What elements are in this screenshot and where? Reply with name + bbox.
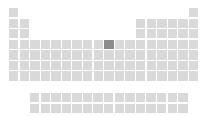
element-cell-sm[interactable] [83,93,92,102]
element-cell-er[interactable] [146,93,155,102]
element-cell-lr[interactable] [178,104,187,113]
element-cell-eu[interactable] [93,93,102,102]
element-cell-ac[interactable] [30,104,39,113]
element-cell-la[interactable] [30,93,39,102]
element-cell-ce[interactable] [41,93,50,102]
element-cell-es[interactable] [136,104,145,113]
element-cell-fm[interactable] [146,104,155,113]
element-cell-pu[interactable] [83,104,92,113]
element-cell-ho[interactable] [136,93,145,102]
element-cell-dy[interactable] [125,93,134,102]
element-cell-no[interactable] [168,104,177,113]
element-cell-am[interactable] [93,104,102,113]
element-cell-nd[interactable] [62,93,71,102]
element-cell-gd[interactable] [104,93,113,102]
element-cell-md[interactable] [157,104,166,113]
element-cell-cm[interactable] [104,104,113,113]
element-cell-bk[interactable] [115,104,124,113]
element-cell-lu[interactable] [178,93,187,102]
element-cell-cf[interactable] [125,104,134,113]
element-cell-np[interactable] [72,104,81,113]
periodic-table-f-block [0,0,208,117]
element-cell-pa[interactable] [51,104,60,113]
element-cell-yb[interactable] [168,93,177,102]
element-cell-tm[interactable] [157,93,166,102]
element-cell-pm[interactable] [72,93,81,102]
element-cell-pr[interactable] [51,93,60,102]
periodic-table[interactable] [0,0,208,117]
element-cell-u[interactable] [62,104,71,113]
element-cell-tb[interactable] [115,93,124,102]
element-cell-th[interactable] [41,104,50,113]
